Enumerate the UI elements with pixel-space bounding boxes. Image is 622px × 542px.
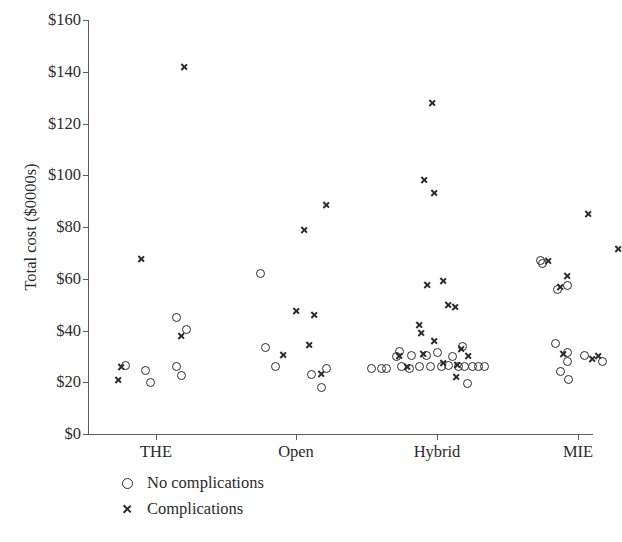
data-point (551, 339, 560, 348)
y-tick (83, 124, 88, 125)
data-point (433, 348, 442, 357)
data-point (310, 311, 318, 319)
y-tick (83, 279, 88, 280)
data-point (452, 373, 460, 381)
y-tick-label: $40 (56, 322, 81, 339)
x-tick-label-open: Open (278, 444, 314, 461)
data-point (423, 281, 431, 289)
y-tick-label: $20 (56, 374, 81, 391)
x-axis-line (88, 434, 593, 435)
cross-marker-icon (120, 500, 138, 518)
data-point (317, 370, 325, 378)
data-point (439, 359, 447, 367)
y-tick-label: $60 (56, 271, 81, 288)
data-point (428, 99, 436, 107)
data-point (430, 337, 438, 345)
data-point (292, 307, 300, 315)
data-point (177, 332, 185, 340)
data-point (556, 367, 565, 376)
data-point (464, 352, 472, 360)
legend-label: Complications (147, 496, 243, 522)
y-tick-label: $100 (48, 167, 81, 184)
data-point (403, 363, 411, 371)
y-tick-label: $140 (48, 64, 81, 81)
y-axis-line (88, 20, 89, 435)
y-tick (83, 331, 88, 332)
data-point (430, 189, 438, 197)
data-point (417, 329, 425, 337)
data-point (146, 378, 155, 387)
data-point (407, 351, 416, 360)
data-point (180, 63, 188, 71)
data-point (256, 269, 265, 278)
x-tick-label-the: THE (140, 444, 172, 461)
x-tick (156, 434, 157, 440)
data-point (395, 352, 403, 360)
data-point (382, 364, 391, 373)
data-point (453, 361, 461, 369)
legend-item-complications: Complications (120, 496, 264, 522)
data-point (463, 379, 472, 388)
data-point (279, 351, 287, 359)
y-tick (83, 434, 88, 435)
data-point (114, 376, 122, 384)
x-tick-label-hybrid: Hybrid (414, 444, 461, 461)
data-point (261, 343, 270, 352)
data-point (594, 352, 602, 360)
data-point (419, 350, 427, 358)
x-tick (578, 434, 579, 440)
x-tick (296, 434, 297, 440)
data-point (451, 303, 459, 311)
data-point (564, 375, 573, 384)
data-point (614, 245, 622, 253)
plot-area: $0$20$40$60$80$100$120$140$160 THEOpenHy… (88, 20, 593, 434)
y-tick-label: $160 (48, 12, 81, 29)
y-tick (83, 72, 88, 73)
data-point (563, 281, 572, 290)
y-tick (83, 227, 88, 228)
data-point (307, 370, 316, 379)
data-point (415, 362, 424, 371)
data-point (300, 226, 308, 234)
data-point (480, 362, 489, 371)
y-tick (83, 175, 88, 176)
circle-marker-icon (120, 474, 138, 492)
legend-item-no-complications: No complications (120, 470, 264, 496)
data-point (305, 341, 313, 349)
data-point (544, 257, 552, 265)
y-tick-label: $0 (65, 426, 82, 443)
data-point (322, 201, 330, 209)
y-axis-title: Total cost ($0000s) (21, 20, 43, 434)
chart-legend: No complicationsComplications (120, 470, 264, 522)
x-tick-label-mie: MIE (563, 444, 593, 461)
data-point (563, 357, 572, 366)
y-tick-label: $80 (56, 219, 81, 236)
data-point (141, 366, 150, 375)
data-point (563, 272, 571, 280)
data-point (426, 362, 435, 371)
data-point (271, 362, 280, 371)
data-point (420, 176, 428, 184)
x-tick (437, 434, 438, 440)
data-point (367, 364, 376, 373)
y-tick (83, 382, 88, 383)
data-point (448, 352, 457, 361)
legend-label: No complications (147, 470, 264, 496)
y-tick-label: $120 (48, 115, 81, 132)
data-point (559, 350, 567, 358)
data-point (317, 383, 326, 392)
data-point (584, 210, 592, 218)
data-point (177, 371, 186, 380)
y-tick (83, 20, 88, 21)
data-point (439, 277, 447, 285)
data-point (117, 363, 125, 371)
data-point (172, 362, 181, 371)
data-point (137, 255, 145, 263)
data-point (556, 283, 564, 291)
data-point (172, 313, 181, 322)
